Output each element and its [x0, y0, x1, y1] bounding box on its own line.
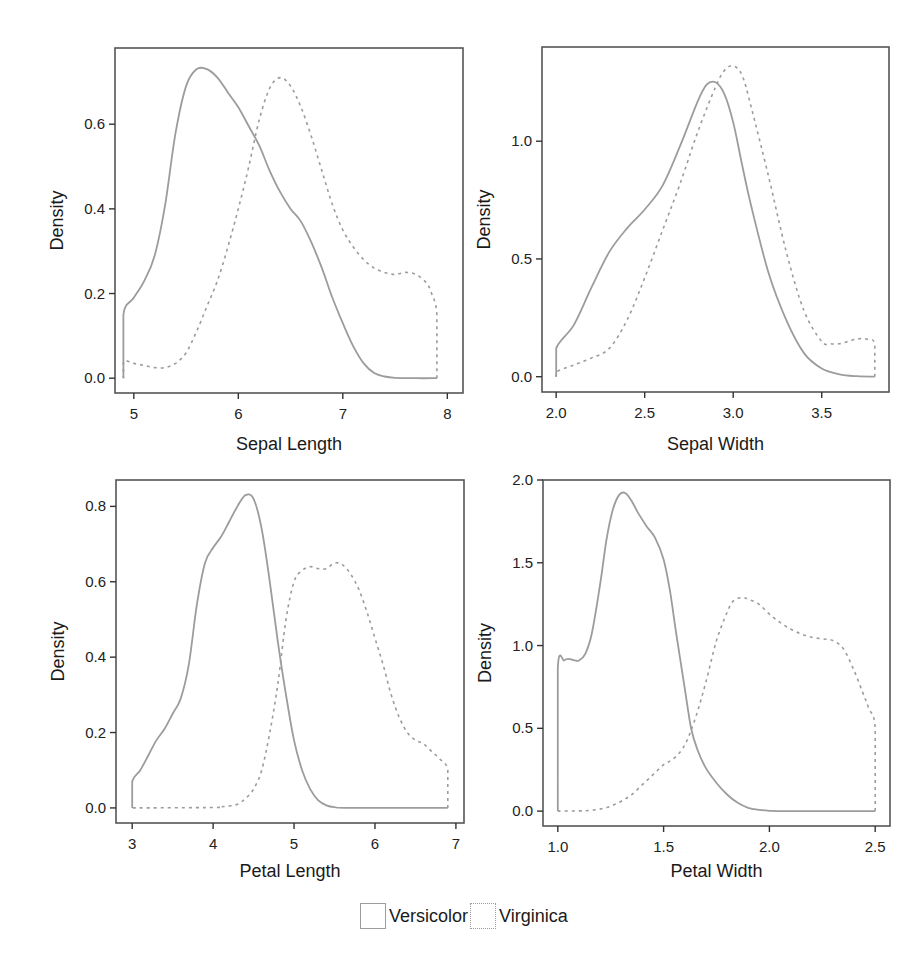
panel-sepal-width: 2.02.53.03.50.00.51.0Sepal WidthDensity	[474, 47, 889, 454]
plot-frame	[116, 480, 464, 823]
density-curve-virginica	[556, 66, 875, 377]
density-curve-versicolor	[123, 68, 437, 379]
legend-label-versicolor: Versicolor	[389, 906, 468, 927]
y-tick-label: 0.0	[511, 368, 532, 385]
density-curve-versicolor	[558, 493, 875, 812]
y-tick-label: 0.0	[512, 802, 533, 819]
x-axis-title: Petal Width	[670, 861, 762, 881]
y-tick-label: 0.0	[84, 369, 105, 386]
x-tick-label: 1.0	[547, 838, 568, 855]
x-tick-label: 2.0	[546, 404, 567, 421]
plot-frame	[115, 48, 463, 393]
density-curve-virginica	[558, 597, 875, 811]
y-tick-label: 0.4	[85, 648, 106, 665]
x-tick-label: 3.0	[723, 404, 744, 421]
iris-density-figure: 56780.00.20.40.6Sepal LengthDensity 2.02…	[0, 0, 912, 959]
y-tick-label: 0.0	[85, 799, 106, 816]
x-tick-label: 2.0	[759, 838, 780, 855]
y-tick-label: 0.6	[85, 573, 106, 590]
y-tick-label: 0.2	[84, 285, 105, 302]
y-tick-label: 2.0	[512, 471, 533, 488]
x-tick-label: 8	[443, 405, 451, 422]
density-curve-virginica	[132, 563, 448, 808]
density-curve-virginica	[123, 78, 437, 379]
y-tick-label: 1.0	[512, 637, 533, 654]
y-axis-title: Density	[48, 621, 68, 681]
legend-key-dashed-swatch	[470, 903, 496, 929]
y-axis-title: Density	[475, 623, 495, 683]
x-tick-label: 5	[130, 405, 138, 422]
y-tick-label: 0.5	[511, 250, 532, 267]
panel-petal-length: 345670.00.20.40.60.8Petal LengthDensity	[48, 480, 464, 881]
legend-item-virginica: Virginica	[470, 903, 568, 929]
legend: Versicolor Virginica	[360, 900, 570, 932]
legend-label-virginica: Virginica	[499, 906, 568, 927]
y-tick-label: 0.5	[512, 719, 533, 736]
x-tick-label: 6	[371, 835, 379, 852]
x-tick-label: 1.5	[653, 838, 674, 855]
x-tick-label: 7	[452, 835, 460, 852]
plot-frame	[542, 47, 889, 392]
y-tick-label: 0.6	[84, 115, 105, 132]
y-tick-label: 0.4	[84, 200, 105, 217]
density-curve-versicolor	[556, 82, 875, 377]
panel-petal-width: 1.01.52.02.50.00.51.01.52.0Petal WidthDe…	[475, 471, 890, 881]
x-axis-title: Sepal Length	[236, 434, 342, 454]
y-tick-label: 0.2	[85, 724, 106, 741]
y-tick-label: 1.0	[511, 132, 532, 149]
x-tick-label: 3.5	[811, 404, 832, 421]
panel-sepal-length: 56780.00.20.40.6Sepal LengthDensity	[47, 48, 463, 454]
legend-item-versicolor: Versicolor	[360, 903, 468, 929]
density-curve-versicolor	[132, 494, 448, 808]
x-tick-label: 7	[339, 405, 347, 422]
y-tick-label: 1.5	[512, 554, 533, 571]
x-tick-label: 2.5	[634, 404, 655, 421]
x-axis-title: Sepal Width	[667, 434, 764, 454]
x-tick-label: 6	[234, 405, 242, 422]
y-axis-title: Density	[474, 189, 494, 249]
x-tick-label: 3	[128, 835, 136, 852]
x-tick-label: 2.5	[865, 838, 886, 855]
y-axis-title: Density	[47, 190, 67, 250]
legend-key-solid-swatch	[360, 903, 386, 929]
x-tick-label: 5	[290, 835, 298, 852]
x-axis-title: Petal Length	[239, 861, 340, 881]
y-tick-label: 0.8	[85, 497, 106, 514]
x-tick-label: 4	[209, 835, 217, 852]
plot-frame	[543, 480, 890, 826]
